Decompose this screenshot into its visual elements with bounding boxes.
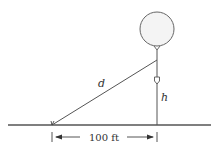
height-label: h (161, 91, 168, 104)
weight-icon (155, 77, 160, 84)
horizontal-distance-label: 100 ft (89, 132, 119, 143)
balloon-knot (154, 46, 160, 50)
distance-label: d (98, 77, 105, 90)
distance-line (52, 60, 157, 125)
balloon-diagram: d h 100 ft (0, 0, 224, 147)
arrowhead-right-icon (147, 135, 154, 140)
arrowhead-left-icon (55, 135, 62, 140)
balloon-icon (140, 12, 174, 46)
